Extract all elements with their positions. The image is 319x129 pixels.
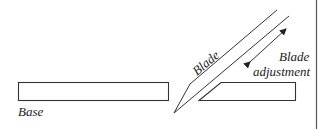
base-label: Base	[18, 104, 44, 119]
blade-label: Blade	[189, 47, 222, 78]
base-block	[19, 83, 169, 101]
blade-adjustment-label-line1: Blade	[279, 49, 310, 64]
blade-diagram: Base Blade Blade adjustment	[0, 0, 319, 129]
blade-adjustment-label-line2: adjustment	[253, 64, 310, 79]
blade-guide-block	[199, 83, 296, 101]
